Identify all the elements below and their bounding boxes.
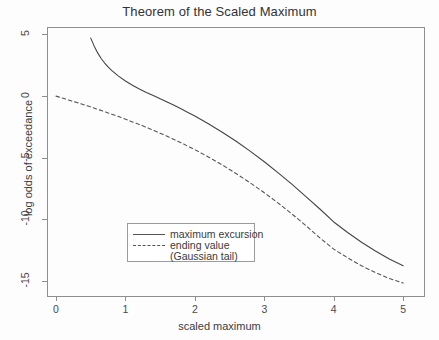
legend-item: (Gaussian tail) <box>128 250 238 262</box>
x-tick-label: 3 <box>252 303 276 315</box>
x-tick-label: 0 <box>44 303 68 315</box>
x-tick-label: 5 <box>391 303 415 315</box>
legend-key-dashed-line-icon <box>133 240 165 250</box>
x-tick-label: 4 <box>322 303 346 315</box>
legend-label: (Gaussian tail) <box>170 250 238 262</box>
y-tick-label: -15 <box>19 265 31 295</box>
legend-key-solid-line-icon <box>133 229 165 239</box>
chart-legend: maximum excursionending value(Gaussian t… <box>127 223 255 262</box>
x-tick-label: 2 <box>183 303 207 315</box>
x-axis-label: scaled maximum <box>0 320 439 332</box>
y-tick-label: 5 <box>19 18 31 48</box>
y-axis-label: log odds of exceedance <box>22 78 34 238</box>
plot-area <box>0 0 439 340</box>
x-tick-label: 1 <box>113 303 137 315</box>
legend-key-none-line-icon <box>133 251 165 261</box>
chart-figure: Theorem of the Scaled Maximum 01234550-5… <box>0 0 439 340</box>
